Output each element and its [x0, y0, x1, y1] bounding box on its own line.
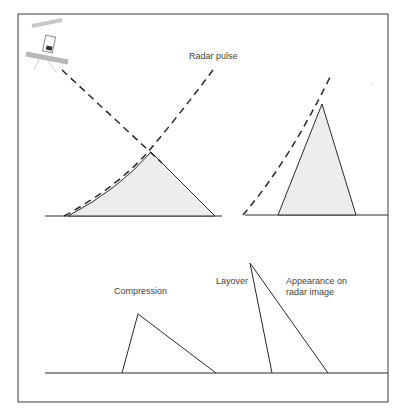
radar-pulse-label: Radar pulse — [189, 51, 238, 62]
compression-shape — [122, 314, 216, 373]
radar-geometry-diagram — [0, 0, 404, 419]
satellite-icon — [26, 20, 68, 72]
hill-gentle-slope — [68, 152, 215, 216]
satellite-look-line — [62, 70, 162, 163]
hill-steep — [278, 104, 356, 215]
appearance-label-line1: Appearance on — [286, 276, 347, 287]
layover-label: Layover — [216, 276, 248, 287]
compression-label: Compression — [114, 286, 167, 297]
appearance-label-line2: radar image — [286, 287, 334, 298]
stray-dot — [372, 83, 374, 85]
